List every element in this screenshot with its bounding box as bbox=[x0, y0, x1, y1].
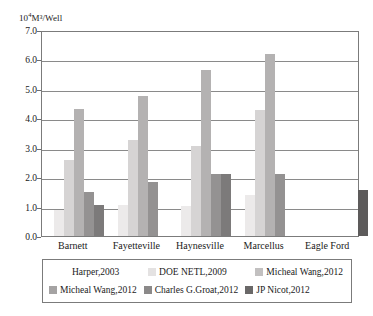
legend-item: Harper,2003 bbox=[61, 267, 119, 278]
x-tick-label: Haynesville bbox=[168, 240, 232, 252]
bar bbox=[221, 174, 231, 236]
legend-label: Micheal Wang,2012 bbox=[266, 267, 343, 278]
legend-swatch bbox=[49, 286, 57, 294]
y-tick-mark bbox=[37, 237, 41, 238]
bar-group bbox=[181, 30, 241, 236]
bar bbox=[128, 140, 138, 236]
bar-group bbox=[118, 30, 178, 236]
legend-item: DOE NETL,2009 bbox=[148, 267, 227, 278]
legend-item: Micheal Wang,2012 bbox=[255, 267, 343, 278]
bar bbox=[94, 205, 104, 236]
legend-label: Harper,2003 bbox=[72, 267, 119, 278]
bar bbox=[245, 195, 255, 236]
legend-swatch bbox=[144, 286, 152, 294]
bar bbox=[265, 54, 275, 236]
y-tick-label: 1.0 bbox=[9, 203, 37, 213]
legend-swatch bbox=[148, 268, 156, 276]
bar bbox=[54, 210, 64, 236]
bar-group bbox=[308, 30, 368, 236]
legend-item: JP Nicot,2012 bbox=[245, 285, 309, 296]
bar bbox=[201, 70, 211, 236]
y-tick-label: 5.0 bbox=[9, 85, 37, 95]
y-tick-label: 3.0 bbox=[9, 144, 37, 154]
bar-groups bbox=[42, 32, 358, 236]
legend-item: Micheal Wang,2012 bbox=[49, 285, 137, 296]
y-axis-unit-label: 104M³/Well bbox=[19, 9, 62, 24]
legend-label: Micheal Wang,2012 bbox=[60, 285, 137, 296]
x-tick-label: Barnett bbox=[41, 240, 105, 252]
legend-row: Harper,2003DOE NETL,2009Micheal Wang,201… bbox=[47, 263, 347, 281]
bar-group bbox=[54, 30, 114, 236]
y-axis-unit-mantissa: 10 bbox=[19, 13, 28, 23]
legend-swatch bbox=[245, 286, 253, 294]
plot-area bbox=[41, 31, 359, 237]
x-tick-label: Eagle Ford bbox=[295, 240, 359, 252]
y-tick-label: 2.0 bbox=[9, 173, 37, 183]
legend: Harper,2003DOE NETL,2009Micheal Wang,201… bbox=[42, 259, 352, 303]
bar bbox=[84, 192, 94, 236]
bar bbox=[275, 174, 285, 236]
bar-group bbox=[245, 30, 305, 236]
bar bbox=[64, 160, 74, 237]
bar bbox=[191, 146, 201, 236]
y-tick-label: 6.0 bbox=[9, 55, 37, 65]
bar bbox=[211, 174, 221, 236]
y-tick-label: 4.0 bbox=[9, 114, 37, 124]
legend-item: Charles G.Groat,2012 bbox=[144, 285, 239, 296]
bar bbox=[181, 206, 191, 236]
bar bbox=[255, 110, 265, 236]
bar bbox=[118, 205, 128, 236]
x-tick-label: Fayetteville bbox=[105, 240, 169, 252]
bar bbox=[138, 96, 148, 236]
legend-label: DOE NETL,2009 bbox=[159, 267, 227, 278]
legend-row: Micheal Wang,2012Charles G.Groat,2012JP … bbox=[47, 281, 347, 299]
y-tick-label: 7.0 bbox=[9, 26, 37, 36]
y-tick-label: 0.0 bbox=[9, 232, 37, 242]
legend-swatch bbox=[255, 268, 263, 276]
y-axis-unit-rest: M³/Well bbox=[32, 13, 63, 23]
bar bbox=[74, 109, 84, 236]
bar bbox=[148, 182, 158, 236]
legend-label: JP Nicot,2012 bbox=[256, 285, 309, 296]
bar bbox=[358, 190, 368, 236]
bar-chart-figure: 104M³/Well 7.06.05.04.03.02.01.00.0 Barn… bbox=[0, 0, 373, 316]
x-tick-label: Marcellus bbox=[232, 240, 296, 252]
legend-label: Charles G.Groat,2012 bbox=[155, 285, 239, 296]
